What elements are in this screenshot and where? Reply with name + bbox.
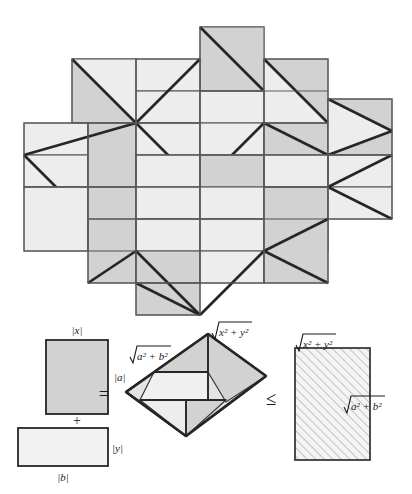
label-sqrt-a2-b2-parallelogram: a² + b² bbox=[130, 346, 171, 363]
tessellation-group bbox=[24, 27, 392, 315]
tile-row-d bbox=[88, 219, 328, 315]
label-abs-b: |b| bbox=[57, 471, 69, 483]
label-sqrt-x2-y2-parallelogram-text: x² + y² bbox=[218, 326, 249, 338]
rect-b-times-y bbox=[18, 428, 108, 466]
label-sqrt-x2-y2-parallelogram: x² + y² bbox=[212, 322, 252, 339]
label-equals: = bbox=[99, 383, 110, 404]
label-abs-a: |a| bbox=[114, 371, 126, 383]
label-leq: ≤ bbox=[266, 388, 276, 409]
label-sqrt-a2-b2-parallelogram-text: a² + b² bbox=[137, 350, 168, 362]
label-sqrt-x2-y2-rect-text: x² + y² bbox=[302, 338, 333, 350]
label-plus: + bbox=[73, 413, 81, 428]
equation-left-group bbox=[18, 340, 108, 466]
label-sqrt-a2-b2-rect-text: a² + b² bbox=[351, 400, 382, 412]
label-abs-x: |x| bbox=[72, 324, 83, 336]
tile-block-top-spur bbox=[200, 27, 264, 91]
label-abs-y: |y| bbox=[112, 442, 123, 454]
figure-root: |x| |a| + |y| |b| = ≤ a² + b² x² + y² bbox=[0, 0, 412, 494]
pinwheel-tessellation: |x| |a| + |y| |b| = ≤ a² + b² x² + y² bbox=[0, 0, 412, 494]
